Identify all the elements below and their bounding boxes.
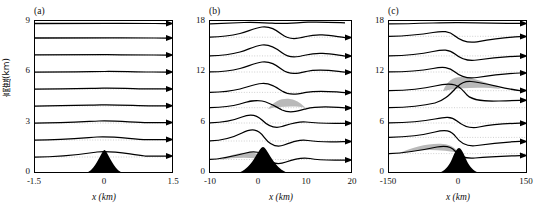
panel-b-svg	[210, 21, 352, 173]
panel-b-ytick-12: 12	[183, 65, 205, 75]
panel-b-xtick-2: 10	[288, 176, 324, 186]
panel-b-ytick-6: 6	[183, 116, 205, 126]
panel-a-plot-area	[34, 20, 173, 173]
panel-c-flow-arrows	[520, 21, 527, 159]
panel-c-shaded-regions	[397, 77, 501, 154]
panel-b-ytick-0: 0	[183, 166, 205, 176]
panel-b-plot-area	[209, 20, 352, 173]
panel-c-terrain	[431, 148, 487, 173]
panel-c-x-axis-title: x (km)	[422, 192, 494, 202]
panel-a-xtick-min: -1.5	[16, 176, 52, 186]
panel-c-xtick-1: 0	[440, 176, 476, 186]
panel-c-ytick-0: 0	[362, 166, 384, 176]
panel-b-ytick-18: 18	[183, 15, 205, 25]
panel-b-xtick-3: 20	[334, 176, 370, 186]
panel-b-x-axis-title: x (km)	[245, 192, 317, 202]
y-axis-title: 高度(km)	[0, 58, 15, 97]
panel-b-label: (b)	[209, 6, 220, 16]
panel-a-flow-arrows	[166, 21, 173, 159]
panel-a-x-axis-title: x (km)	[68, 192, 140, 202]
panel-b-xtick-0: -10	[192, 176, 228, 186]
figure-container: 高度(km) (a) 9 6 3 0	[0, 0, 538, 212]
panel-b-gridlines	[210, 37, 352, 159]
panel-a-label: (a)	[34, 6, 45, 16]
panel-c-xtick-2: 150	[508, 176, 538, 186]
panel-c-svg	[389, 21, 527, 173]
panel-a-svg	[35, 21, 173, 173]
panel-c-xtick-0: -150	[370, 176, 406, 186]
panel-c-label: (c)	[388, 6, 399, 16]
panel-c-ytick-6: 6	[362, 116, 384, 126]
panel-b-terrain	[230, 147, 296, 173]
panel-c-streamlines	[389, 23, 520, 159]
panel-a-xtick-max: 1.5	[155, 176, 191, 186]
panel-a-ytick-6: 6	[8, 65, 30, 75]
panel-a-ytick-9: 9	[8, 15, 30, 25]
panel-b-xtick-1: 0	[240, 176, 276, 186]
panel-c-ytick-12: 12	[362, 65, 384, 75]
panel-a-streamlines	[35, 23, 166, 157]
panel-a-xtick-mid: 0	[86, 176, 122, 186]
panel-b-streamlines	[210, 22, 345, 164]
panel-a-ytick-3: 3	[8, 116, 30, 126]
panel-a-ytick-0: 0	[8, 166, 30, 176]
panel-b-flow-arrows	[345, 35, 352, 163]
panel-c-plot-area	[388, 20, 527, 173]
panel-c-ytick-18: 18	[362, 15, 384, 25]
